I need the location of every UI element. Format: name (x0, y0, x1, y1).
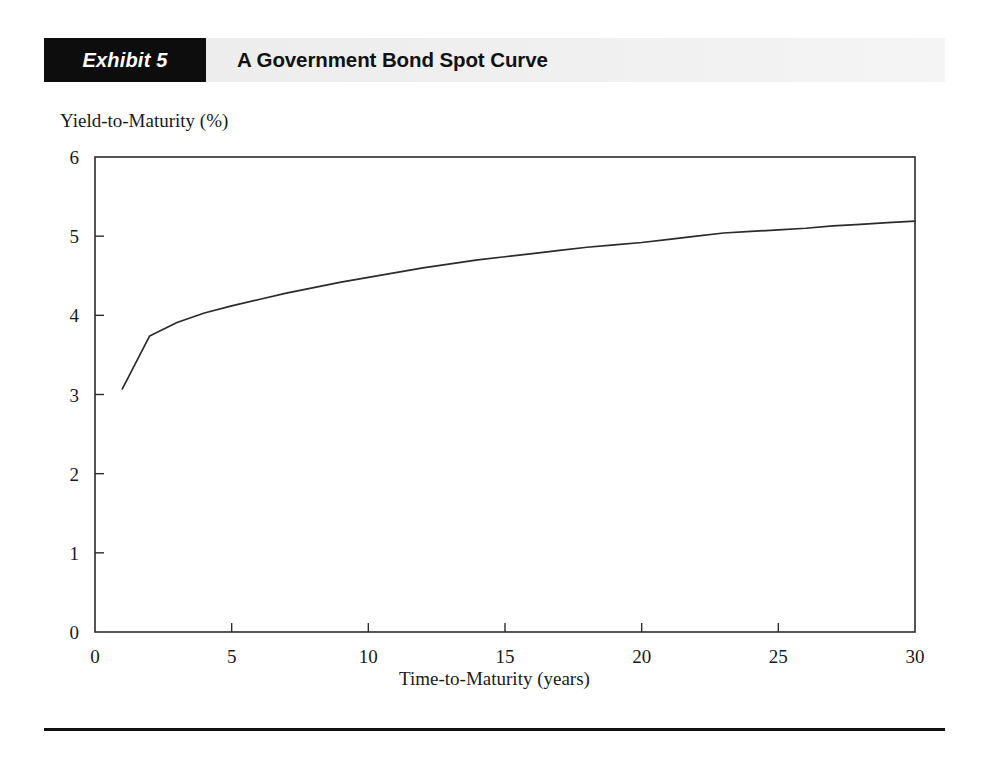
x-axis-tick-labels: 051015202530 (90, 646, 924, 667)
spot-curve-line (122, 221, 915, 389)
y-axis-tick-labels: 0123456 (70, 147, 80, 643)
y-tick-label: 0 (70, 622, 80, 643)
x-tick-label: 0 (90, 646, 100, 667)
spot-curve-chart: 0123456 051015202530 (44, 96, 945, 696)
x-axis-title: Time-to-Maturity (years) (44, 668, 945, 690)
x-axis-ticks (232, 623, 779, 632)
bottom-rule (44, 728, 945, 731)
y-tick-label: 1 (70, 543, 80, 564)
y-tick-label: 6 (70, 147, 80, 168)
x-tick-label: 30 (906, 646, 925, 667)
exhibit-title: A Government Bond Spot Curve (206, 38, 548, 82)
y-axis-ticks (95, 236, 104, 553)
x-tick-label: 15 (496, 646, 515, 667)
y-tick-label: 2 (70, 464, 80, 485)
exhibit-header: Exhibit 5 A Government Bond Spot Curve (44, 38, 945, 82)
series-group (122, 221, 915, 389)
x-tick-label: 25 (769, 646, 788, 667)
y-tick-label: 5 (70, 226, 80, 247)
exhibit-tag-label: Exhibit 5 (82, 49, 167, 72)
x-tick-label: 20 (632, 646, 651, 667)
x-tick-label: 5 (227, 646, 237, 667)
y-tick-label: 4 (70, 305, 80, 326)
exhibit-page: Exhibit 5 A Government Bond Spot Curve Y… (0, 0, 994, 757)
exhibit-tag: Exhibit 5 (44, 38, 206, 82)
chart-container: Yield-to-Maturity (%) 0123456 0510152025… (44, 96, 945, 696)
y-tick-label: 3 (70, 385, 80, 406)
x-tick-label: 10 (359, 646, 378, 667)
